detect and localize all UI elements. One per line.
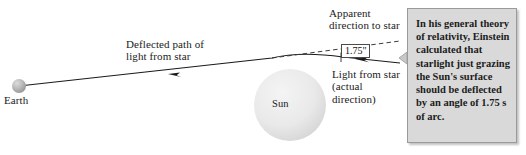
apparent-direction-dashed-line bbox=[272, 41, 400, 58]
deflection-angle-label: 1.75" bbox=[341, 44, 370, 58]
einstein-light-deflection-diagram: In his general theory of relativity, Ein… bbox=[0, 0, 526, 155]
earth-label: Earth bbox=[4, 94, 28, 106]
sun-label: Sun bbox=[272, 98, 289, 110]
apparent-direction-label: Apparent direction to star bbox=[329, 7, 400, 32]
callout-text: In his general theory of relativity, Ein… bbox=[416, 17, 512, 123]
callout-pointer-icon bbox=[399, 52, 407, 64]
earth-sphere bbox=[12, 79, 26, 93]
deflected-path-arrowhead bbox=[168, 73, 181, 78]
actual-direction-label: Light from star (actual direction) bbox=[332, 68, 400, 105]
deflected-path-label: Deflected path of light from star bbox=[126, 38, 204, 63]
callout-box: In his general theory of relativity, Ein… bbox=[407, 8, 517, 143]
sun-sphere bbox=[254, 69, 326, 141]
